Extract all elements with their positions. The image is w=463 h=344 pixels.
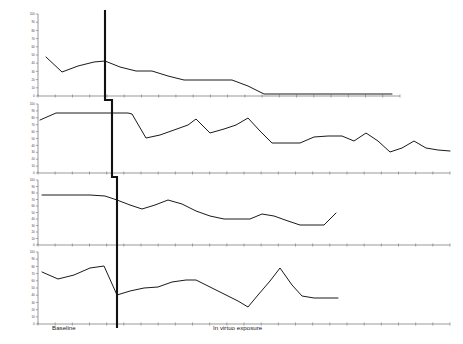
y-tick-label: 20 xyxy=(31,78,35,82)
y-tick-label: 70 xyxy=(31,272,35,276)
y-tick-label: 80 xyxy=(31,29,35,33)
phase-label-baseline: Baseline xyxy=(52,324,76,331)
y-tick-label: 80 xyxy=(31,265,35,269)
y-tick-label: 30 xyxy=(31,224,35,228)
y-tick-label: 80 xyxy=(31,116,35,120)
y-tick-label: 90 xyxy=(31,20,35,24)
y-tick-label: 50 xyxy=(31,211,35,215)
y-tick-label: 20 xyxy=(31,308,35,312)
y-tick-label: 60 xyxy=(31,130,35,134)
y-tick-label: 30 xyxy=(31,150,35,154)
y-tick-label: 40 xyxy=(31,144,35,148)
y-tick-label: 90 xyxy=(31,109,35,113)
y-tick-label: 100 xyxy=(30,250,35,254)
phase-label-exposure: In virtuo exposure xyxy=(213,324,263,331)
y-tick-label: 90 xyxy=(31,257,35,261)
y-tick-label: 80 xyxy=(31,191,35,195)
y-tick-label: 30 xyxy=(31,301,35,305)
y-tick-label: 40 xyxy=(31,217,35,221)
y-tick-label: 70 xyxy=(31,123,35,127)
y-tick-label: 20 xyxy=(31,230,35,234)
y-tick-label: 10 xyxy=(31,315,35,319)
y-tick-label: 90 xyxy=(31,185,35,189)
y-tick-label: 10 xyxy=(31,164,35,168)
y-tick-label: 70 xyxy=(31,198,35,202)
y-tick-label: 10 xyxy=(31,237,35,241)
y-tick-label: 60 xyxy=(31,45,35,49)
y-tick-label: 60 xyxy=(31,279,35,283)
multiple-baseline-figure: 0102030405060708090100010203040506070809… xyxy=(0,0,463,344)
y-tick-label: 20 xyxy=(31,157,35,161)
y-tick-label: 50 xyxy=(31,137,35,141)
y-tick-label: 50 xyxy=(31,286,35,290)
y-tick-label: 40 xyxy=(31,61,35,65)
y-tick-label: 100 xyxy=(30,178,35,182)
chart-canvas: 0102030405060708090100010203040506070809… xyxy=(0,0,463,344)
y-tick-label: 70 xyxy=(31,37,35,41)
y-tick-label: 10 xyxy=(31,86,35,90)
y-tick-label: 50 xyxy=(31,53,35,57)
y-tick-label: 60 xyxy=(31,204,35,208)
y-tick-label: 100 xyxy=(30,102,35,106)
y-tick-label: 40 xyxy=(31,293,35,297)
y-tick-label: 30 xyxy=(31,70,35,74)
figure-background xyxy=(0,0,463,344)
y-tick-label: 100 xyxy=(30,12,35,16)
